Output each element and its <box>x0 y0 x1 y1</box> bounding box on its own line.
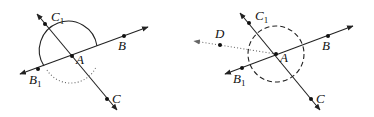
label-b: B <box>322 38 330 53</box>
dotted-ray-ad <box>194 41 276 54</box>
point-c1 <box>43 22 47 26</box>
label-b1: B1 <box>29 72 41 89</box>
label-c: C <box>316 91 325 106</box>
dotted-arc <box>47 67 96 83</box>
point-c <box>105 97 109 101</box>
label-d: D <box>214 26 225 41</box>
label-c: C <box>112 91 121 106</box>
right-figure: C1 A B B1 C D <box>194 8 353 110</box>
label-c1: C1 <box>255 8 268 25</box>
point-b1 <box>240 66 244 70</box>
label-b: B <box>118 38 126 53</box>
label-b1: B1 <box>233 71 245 88</box>
point-d <box>218 43 222 47</box>
point-a <box>70 54 74 58</box>
point-c1 <box>247 21 251 25</box>
point-a <box>274 52 278 56</box>
label-c1: C1 <box>51 9 64 26</box>
diagram-canvas: C1 A B B1 C C1 A B B1 C D <box>0 0 374 117</box>
point-b1 <box>36 67 40 71</box>
point-c <box>309 97 313 101</box>
line-b1-b <box>225 26 353 74</box>
label-a: A <box>279 50 288 65</box>
label-a: A <box>75 52 84 67</box>
left-figure: C1 A B B1 C <box>20 9 148 110</box>
